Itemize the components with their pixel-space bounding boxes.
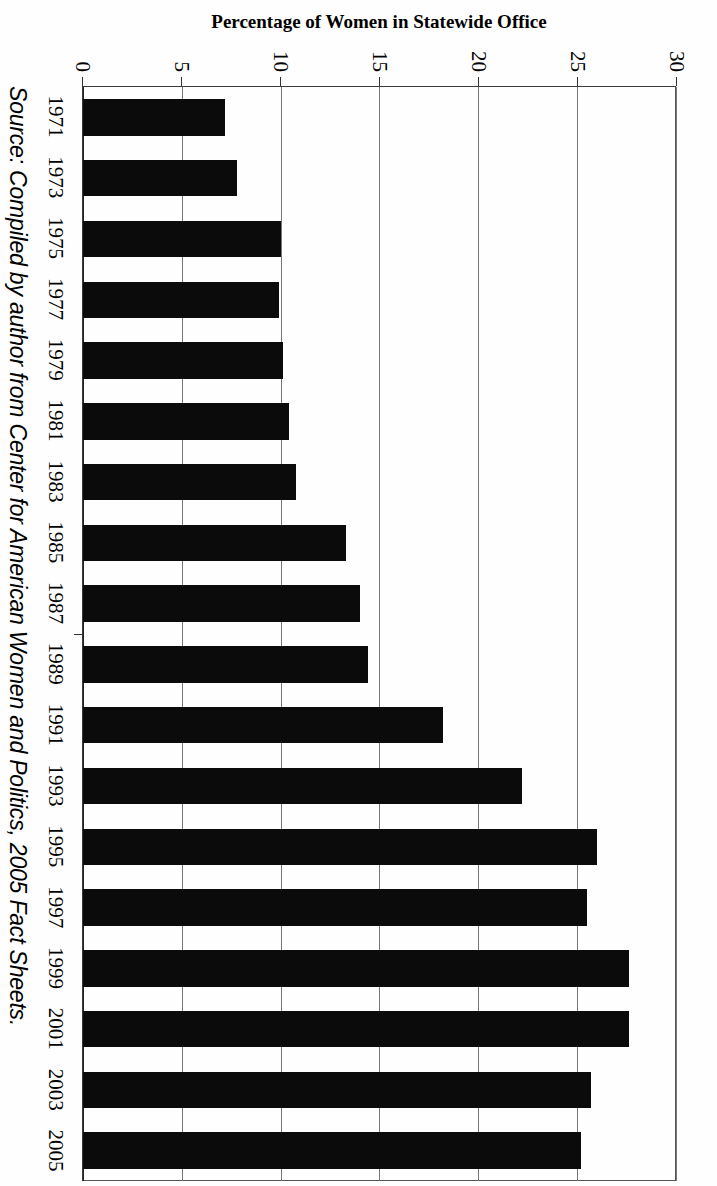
y-axis-tick-label: 15 [367, 51, 392, 72]
x-axis-tick-label: 1983 [36, 451, 76, 512]
bar-slot [83, 148, 676, 209]
bar [83, 1011, 629, 1047]
bar-slot [83, 87, 676, 148]
y-axis-tick-label: 10 [268, 51, 293, 72]
y-axis-title: Percentage of Women in Statewide Office [211, 11, 546, 33]
bar [83, 889, 587, 925]
x-axis-tick-label: 1971 [36, 86, 76, 147]
bar [83, 585, 360, 621]
y-axis-tick [577, 77, 578, 86]
x-axis-tick-label: 1987 [36, 573, 76, 634]
bar-slot [83, 269, 676, 330]
bar-slot [83, 938, 676, 999]
x-axis-tick-label: 2001 [36, 998, 76, 1059]
bar-slot [83, 999, 676, 1060]
bar [83, 1072, 591, 1108]
bar [83, 342, 283, 378]
bar-slot [83, 877, 676, 938]
bar [83, 464, 296, 500]
y-axis-tick [280, 77, 281, 86]
bar-slot [83, 756, 676, 817]
bar [83, 829, 597, 865]
y-axis-tick-label: 5 [169, 62, 194, 73]
x-axis-tick-label: 1991 [36, 694, 76, 755]
x-axis-tick-label: 1997 [36, 877, 76, 938]
chart-plot-area: 051015202530 Percentage of Women in Stat… [82, 86, 676, 1181]
bar [83, 282, 279, 318]
x-axis-tick-label: 1993 [36, 755, 76, 816]
bar [83, 403, 289, 439]
bar-slot [83, 452, 676, 513]
bar [83, 707, 443, 743]
x-axis-tick-label: 1975 [36, 208, 76, 269]
gridline [676, 87, 677, 1181]
bar-slot [83, 573, 676, 634]
y-axis-tick [181, 77, 182, 86]
y-axis-tick-label: 30 [664, 51, 689, 72]
bar [83, 950, 629, 986]
bar-slot [83, 695, 676, 756]
y-axis-tick [82, 77, 83, 86]
x-axis-tick-label: 2003 [36, 1059, 76, 1120]
y-axis-tick-label: 25 [565, 51, 590, 72]
x-axis-tick-label: 1981 [36, 390, 76, 451]
rotated-chart-stage: 051015202530 Percentage of Women in Stat… [0, 0, 717, 1186]
x-axis-tick-label: 1989 [36, 633, 76, 694]
bar-slot [83, 634, 676, 695]
y-axis-tick-label: 20 [466, 51, 491, 72]
bar-slot [83, 1120, 676, 1181]
x-axis-labels: 1971197319751977197919811983198519871989… [36, 86, 76, 1181]
bar [83, 768, 522, 804]
x-axis-tick-label: 2005 [36, 1120, 76, 1181]
bar [83, 1132, 581, 1168]
bar-slot [83, 330, 676, 391]
x-axis-tick-label: 1977 [36, 268, 76, 329]
x-axis-tick-label: 1999 [36, 938, 76, 999]
source-caption: Source: Compiled by author from Center f… [4, 86, 31, 1176]
x-axis-tick-label: 1995 [36, 816, 76, 877]
bar [83, 221, 281, 257]
y-axis-tick [676, 77, 677, 86]
bar-series [83, 87, 676, 1181]
x-axis-tick-label: 1979 [36, 329, 76, 390]
plot [82, 86, 676, 1181]
x-axis-tick [74, 634, 82, 635]
chart-page: 051015202530 Percentage of Women in Stat… [0, 0, 717, 1186]
bar [83, 525, 346, 561]
bar [83, 99, 225, 135]
bar-slot [83, 391, 676, 452]
bar-slot [83, 209, 676, 270]
bar-slot [83, 512, 676, 573]
bar [83, 160, 237, 196]
bar [83, 646, 368, 682]
x-axis-tick-label: 1973 [36, 147, 76, 208]
bar-slot [83, 816, 676, 877]
y-axis-tick-label: 0 [70, 62, 95, 73]
bar-slot [83, 1060, 676, 1121]
y-axis-tick [478, 77, 479, 86]
x-axis-tick-label: 1985 [36, 512, 76, 573]
y-axis-tick [379, 77, 380, 86]
